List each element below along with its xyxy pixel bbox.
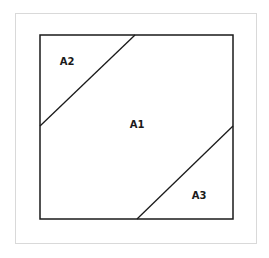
region-label-a3: A3 — [192, 190, 207, 201]
area-diagram: A2 A1 A3 — [0, 0, 269, 258]
region-label-a1: A1 — [130, 119, 145, 130]
region-label-a2: A2 — [60, 56, 75, 67]
